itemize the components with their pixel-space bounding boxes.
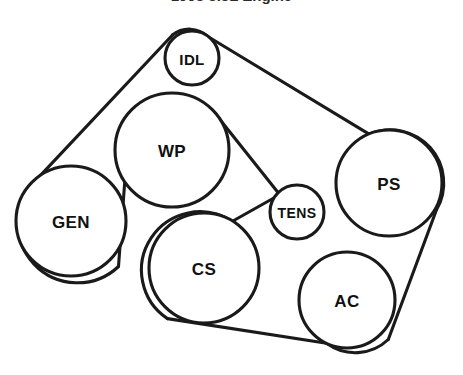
pulley-label-idl: IDL (179, 51, 204, 68)
belt-span-idl-to-ps (208, 37, 370, 135)
pulley-label-ps: PS (377, 175, 400, 194)
belt-routing-canvas: IDLWPGENPSTENSCSAC (0, 0, 463, 375)
pulley-label-cs: CS (192, 260, 216, 279)
pulley-label-ac: AC (334, 292, 359, 311)
pulley-label-wp: WP (158, 142, 186, 161)
diagram-title-strip: 1998 3.8L Engine (0, 0, 463, 11)
pulley-label-gen: GEN (52, 213, 90, 232)
pulley-label-tens: TENS (278, 205, 317, 221)
diagram-title: 1998 3.8L Engine (0, 0, 463, 4)
belt-routing-diagram: IDLWPGENPSTENSCSAC 1998 3.8L Engine (0, 0, 463, 375)
